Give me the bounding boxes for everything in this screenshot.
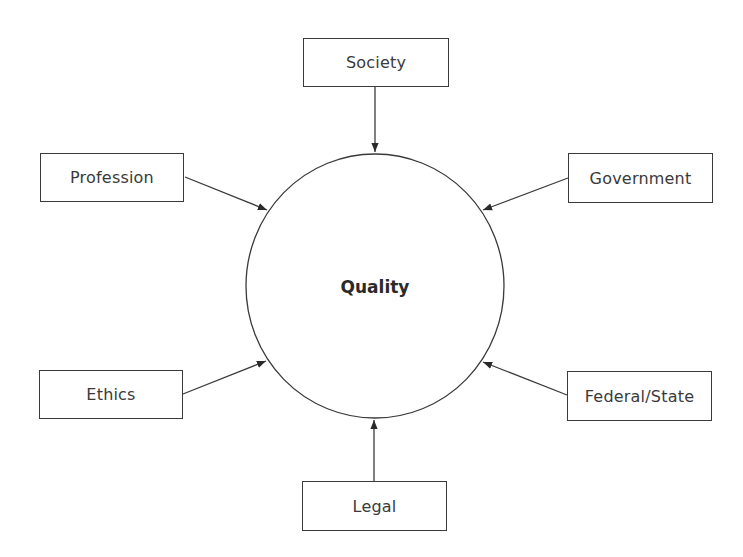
node-label-society: Society xyxy=(346,53,406,72)
node-ethics: Ethics xyxy=(39,370,183,419)
node-legal: Legal xyxy=(302,481,447,531)
arrow-government-to-quality xyxy=(483,178,568,210)
center-label-quality: Quality xyxy=(341,277,410,297)
node-profession: Profession xyxy=(40,153,184,202)
node-federal-state: Federal/State xyxy=(567,371,712,421)
node-label-legal: Legal xyxy=(353,497,397,516)
node-society: Society xyxy=(303,38,449,87)
node-label-federal-state: Federal/State xyxy=(585,387,694,406)
node-label-government: Government xyxy=(590,169,692,188)
arrow-profession-to-quality xyxy=(185,177,267,210)
node-label-ethics: Ethics xyxy=(86,385,135,404)
arrow-ethics-to-quality xyxy=(183,361,266,394)
arrow-federal-state-to-quality xyxy=(483,362,567,395)
node-government: Government xyxy=(568,153,713,203)
node-label-profession: Profession xyxy=(70,168,154,187)
